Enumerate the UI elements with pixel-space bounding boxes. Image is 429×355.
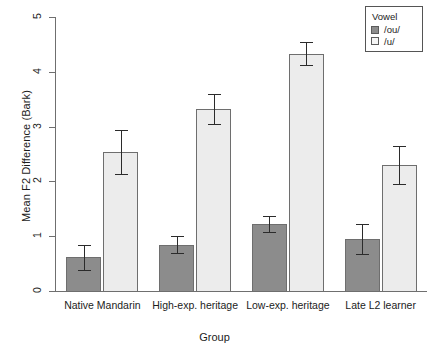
x-axis-category-label: Low-exp. heritage [242, 299, 335, 311]
error-bar-cap [263, 216, 276, 217]
error-bar-cap [208, 94, 221, 95]
error-bar-cap [115, 130, 128, 131]
legend-item-u: /u/ [371, 37, 418, 47]
x-axis-category-label: Late L2 learner [334, 299, 427, 311]
error-bar-cap [171, 236, 184, 237]
error-bar-cap [356, 224, 369, 225]
legend-label-u: /u/ [384, 37, 395, 47]
error-bar [362, 224, 363, 255]
x-axis-category-label: Native Mandarin [56, 299, 149, 311]
error-bar-cap [393, 146, 406, 147]
error-bar-cap [208, 124, 221, 125]
legend-swatch-ou [371, 26, 379, 34]
plot-area: Native MandarinHigh-exp. heritageLow-exp… [0, 0, 429, 355]
error-bar [177, 236, 178, 252]
error-bar-cap [115, 174, 128, 175]
error-bar [214, 94, 215, 125]
x-axis-title: Group [0, 331, 429, 343]
bar [289, 54, 324, 292]
legend-swatch-u [371, 37, 379, 45]
error-bar [121, 130, 122, 174]
error-bar-cap [300, 65, 313, 66]
error-bar [399, 146, 400, 183]
error-bar-cap [300, 42, 313, 43]
error-bar [269, 216, 270, 232]
error-bar-cap [78, 245, 91, 246]
bar [252, 224, 287, 292]
legend-item-ou: /ou/ [371, 25, 418, 35]
error-bar-cap [393, 184, 406, 185]
bar [196, 109, 231, 292]
legend-label-ou: /ou/ [384, 25, 400, 35]
error-bar [306, 42, 307, 66]
legend-title: Vowel [372, 11, 418, 22]
error-bar-cap [78, 270, 91, 271]
error-bar-cap [356, 254, 369, 255]
x-axis-category-label: High-exp. heritage [149, 299, 242, 311]
error-bar-cap [263, 232, 276, 233]
error-bar [84, 245, 85, 270]
bar-chart: Mean F2 Difference (Bark) 012345 Native … [0, 0, 429, 355]
error-bar-cap [171, 253, 184, 254]
legend: Vowel /ou/ /u/ [365, 6, 423, 52]
